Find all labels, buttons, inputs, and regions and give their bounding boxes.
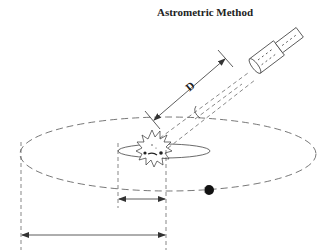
telescope-icon bbox=[247, 25, 305, 75]
planet-orbit-ellipse bbox=[20, 117, 316, 191]
planet-icon bbox=[204, 185, 214, 195]
sight-lines bbox=[160, 73, 255, 148]
star-icon bbox=[136, 130, 172, 167]
distance-label: D bbox=[183, 79, 197, 93]
astrometric-diagram: D bbox=[0, 0, 333, 250]
